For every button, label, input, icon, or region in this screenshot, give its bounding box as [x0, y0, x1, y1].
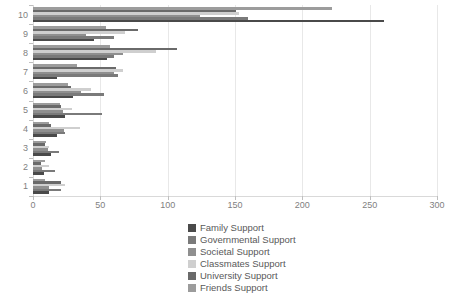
y-axis-tick [29, 158, 33, 159]
legend-swatch-icon [188, 260, 196, 268]
y-axis-tick [29, 62, 33, 63]
legend-entry-friends-support: Friends Support [188, 283, 296, 292]
legend-entry-societal-support: Societal Support [188, 247, 296, 256]
y-axis-label-7: 7 [6, 67, 28, 77]
y-axis-label-10: 10 [6, 10, 28, 20]
bar-family-support-cat-3 [33, 153, 51, 156]
bar-group-category-4 [33, 120, 437, 139]
y-axis-label-4: 4 [6, 124, 28, 134]
bar-family-support-cat-6 [33, 96, 73, 99]
x-axis-label-300: 300 [420, 200, 454, 210]
bar-family-support-cat-7 [33, 77, 57, 80]
legend: Family SupportGovernmental SupportSociet… [188, 223, 296, 292]
legend-entry-classmates-support: Classmates Support [188, 259, 296, 268]
y-axis-tick [29, 120, 33, 121]
bar-group-category-3 [33, 139, 437, 158]
y-axis-tick [29, 81, 33, 82]
legend-entry-family-support: Family Support [188, 223, 296, 232]
x-axis-label-100: 100 [151, 200, 185, 210]
bar-family-support-cat-4 [33, 134, 57, 137]
bar-family-support-cat-2 [33, 172, 44, 175]
legend-swatch-icon [188, 236, 196, 244]
legend-swatch-icon [188, 224, 196, 232]
bar-chart: 050100150200250300 10987654321 Family Su… [0, 0, 459, 301]
y-axis-label-8: 8 [6, 48, 28, 58]
x-axis-label-50: 50 [83, 200, 117, 210]
bar-group-category-5 [33, 101, 437, 120]
y-axis-label-6: 6 [6, 86, 28, 96]
legend-label: Family Support [200, 223, 264, 232]
legend-label: Friends Support [200, 283, 268, 292]
bar-group-category-8 [33, 43, 437, 62]
bar-group-category-6 [33, 81, 437, 100]
legend-label: University Support [200, 271, 278, 280]
x-axis-label-0: 0 [16, 200, 50, 210]
bar-group-category-10 [33, 5, 437, 24]
y-axis-tick [29, 196, 33, 197]
x-axis-label-250: 250 [353, 200, 387, 210]
y-axis-tick [29, 43, 33, 44]
y-axis-tick [29, 24, 33, 25]
gridline-x-300 [437, 5, 438, 196]
bar-family-support-cat-5 [33, 115, 65, 118]
legend-entry-university-support: University Support [188, 271, 296, 280]
y-axis-label-1: 1 [6, 181, 28, 191]
bar-family-support-cat-8 [33, 58, 107, 61]
y-axis-tick [29, 5, 33, 6]
legend-label: Governmental Support [200, 235, 296, 244]
legend-entry-governmental-support: Governmental Support [188, 235, 296, 244]
plot-area [33, 5, 437, 196]
y-axis-label-3: 3 [6, 143, 28, 153]
bar-family-support-cat-9 [33, 39, 94, 42]
x-axis-label-200: 200 [285, 200, 319, 210]
y-axis-label-2: 2 [6, 162, 28, 172]
bar-group-category-7 [33, 62, 437, 81]
bar-family-support-cat-1 [33, 191, 49, 194]
y-axis-label-5: 5 [6, 105, 28, 115]
bar-group-category-2 [33, 158, 437, 177]
y-axis-tick [29, 101, 33, 102]
legend-label: Societal Support [200, 247, 270, 256]
bar-group-category-1 [33, 177, 437, 196]
bar-group-category-9 [33, 24, 437, 43]
x-axis-label-150: 150 [218, 200, 252, 210]
y-axis-tick [29, 139, 33, 140]
bar-family-support-cat-10 [33, 20, 384, 23]
legend-swatch-icon [188, 272, 196, 280]
y-axis-label-9: 9 [6, 29, 28, 39]
legend-swatch-icon [188, 284, 196, 292]
legend-swatch-icon [188, 248, 196, 256]
y-axis-tick [29, 177, 33, 178]
legend-label: Classmates Support [200, 259, 286, 268]
